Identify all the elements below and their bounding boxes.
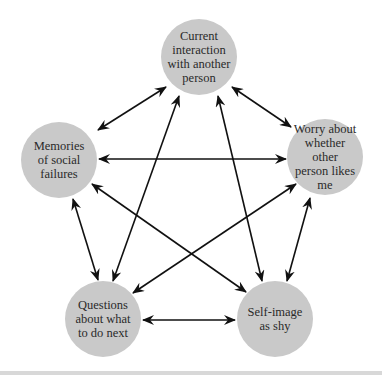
node-worry-about-being-liked: Worry about whether other person likes m… — [287, 119, 363, 195]
node-questions-what-to-do: Questions about what to do next — [65, 281, 141, 357]
arrow-current-questions — [113, 96, 179, 281]
node-current-interaction: Current interaction with another person — [161, 19, 237, 95]
bottom-divider — [0, 371, 382, 375]
arrow-current-worry — [232, 87, 291, 127]
shyness-cycle-diagram: Current interaction with another person … — [0, 0, 382, 375]
node-label: Questions about what to do next — [75, 298, 130, 340]
arrow-worry-selfimage — [287, 198, 310, 281]
arrow-memories-questions — [73, 199, 98, 280]
arrow-current-selfimage — [218, 96, 262, 281]
arrow-worry-questions — [133, 184, 296, 293]
arrow-current-memories — [98, 87, 166, 130]
node-self-image-as-shy: Self-image as shy — [237, 281, 313, 357]
node-label: Worry about whether other person likes m… — [291, 122, 359, 192]
node-memories-of-social-failures: Memories of social failures — [21, 122, 97, 198]
node-label: Self-image as shy — [248, 305, 303, 333]
node-label: Memories of social failures — [34, 139, 85, 181]
node-label: Current interaction with another person — [168, 29, 231, 85]
